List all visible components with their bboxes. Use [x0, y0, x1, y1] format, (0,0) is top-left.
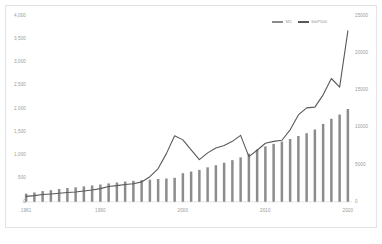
bar — [50, 190, 52, 202]
bar — [99, 185, 101, 202]
y-axis-left-tick-label: 2,500 — [0, 83, 26, 88]
bar — [297, 136, 299, 202]
bar — [305, 133, 307, 202]
bar — [264, 146, 266, 202]
bar — [330, 119, 332, 202]
bar — [215, 165, 217, 202]
bar — [338, 115, 340, 202]
bar — [149, 180, 151, 202]
y-axis-left-tick-label: 2,000 — [0, 107, 26, 112]
chart-legend: M2 S&P500 — [272, 18, 327, 26]
bar — [231, 160, 233, 202]
x-axis-tick-label: 2010 — [250, 209, 280, 214]
bar — [173, 178, 175, 202]
x-axis-tick-label: 2000 — [168, 209, 198, 214]
bar — [182, 173, 184, 202]
legend-label-sp500: S&P500 — [311, 20, 327, 24]
bar — [256, 149, 258, 202]
legend-item-m2: M2 — [272, 20, 292, 24]
y-axis-right-tick-label: 10000 — [355, 125, 381, 130]
bar — [41, 191, 43, 202]
bar — [157, 179, 159, 202]
bar — [66, 188, 68, 202]
bar — [198, 170, 200, 202]
bar — [33, 192, 35, 202]
y-axis-right-tick-label: 0 — [355, 200, 381, 205]
y-axis-left-tick-label: 0 — [0, 200, 26, 205]
y-axis-left-tick-label: 500 — [0, 176, 26, 181]
legend-swatch-bar-icon — [272, 21, 283, 24]
bar — [58, 189, 60, 202]
bar — [289, 139, 291, 202]
bar — [281, 142, 283, 202]
bar — [322, 124, 324, 202]
y-axis-left-tick-label: 3,000 — [0, 60, 26, 65]
bar — [165, 179, 167, 202]
bar — [239, 157, 241, 202]
legend-swatch-line-icon — [298, 21, 309, 22]
y-axis-left-tick-label: 1,500 — [0, 130, 26, 135]
x-axis-tick-label: 1981 — [11, 209, 41, 214]
y-axis-left-tick-label: 4,000 — [0, 14, 26, 19]
bar — [223, 163, 225, 202]
bar — [206, 167, 208, 202]
bar — [272, 144, 274, 202]
y-axis-left-tick-label: 3,500 — [0, 37, 26, 42]
y-axis-right-tick-label: 5000 — [355, 163, 381, 168]
legend-item-sp500: S&P500 — [298, 20, 328, 24]
bar — [74, 187, 76, 202]
bar — [140, 180, 142, 202]
bar-series-m2 — [25, 109, 349, 202]
bar — [190, 172, 192, 202]
y-axis-right-tick-label: 15000 — [355, 88, 381, 93]
y-axis-left-tick-label: 1,000 — [0, 153, 26, 158]
x-axis-tick-label: 2020 — [333, 209, 363, 214]
chart-plot-area — [0, 0, 382, 244]
bar — [347, 109, 349, 202]
bar — [314, 129, 316, 202]
legend-label-m2: M2 — [286, 20, 292, 24]
bar — [91, 185, 93, 202]
chart-container: 05001,0001,5002,0002,5003,0003,5004,000 … — [0, 0, 382, 244]
y-axis-right-tick-label: 20000 — [355, 51, 381, 56]
x-axis-tick-label: 1990 — [85, 209, 115, 214]
bar — [248, 154, 250, 202]
bar — [83, 186, 85, 202]
y-axis-right-tick-label: 25000 — [355, 14, 381, 19]
